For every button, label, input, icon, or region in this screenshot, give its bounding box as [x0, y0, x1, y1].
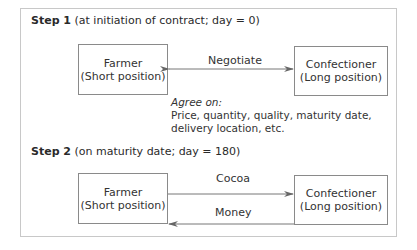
arrows-layer	[0, 0, 417, 250]
